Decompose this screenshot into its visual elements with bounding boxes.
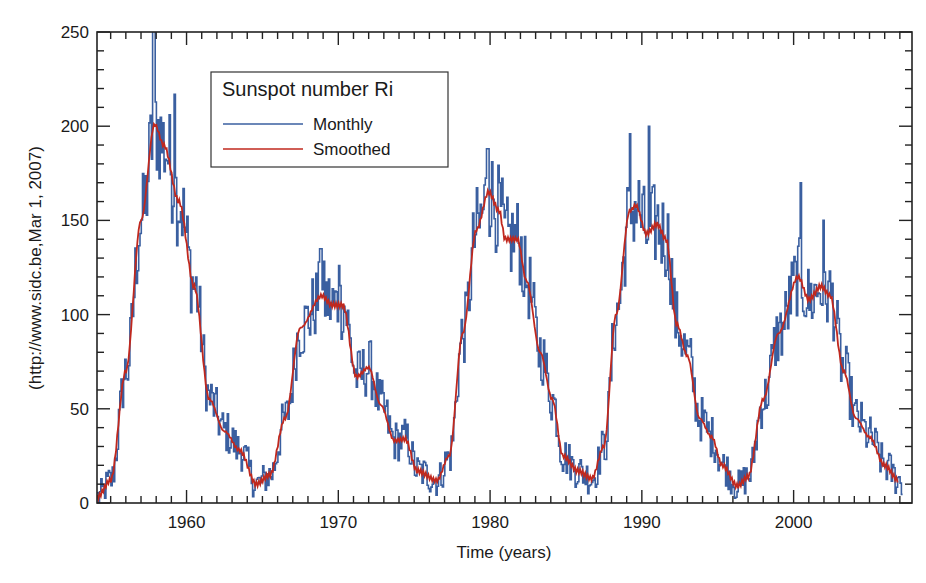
legend-label-monthly: Monthly bbox=[313, 115, 373, 134]
y-tick-label: 250 bbox=[61, 23, 89, 42]
x-tick-label: 1990 bbox=[623, 513, 661, 532]
y-tick-label: 100 bbox=[61, 306, 89, 325]
legend-label-smoothed: Smoothed bbox=[313, 140, 391, 159]
y-tick-label: 200 bbox=[61, 117, 89, 136]
y-axis-tick-labels: 050100150200250 bbox=[61, 23, 89, 513]
y-tick-label: 50 bbox=[70, 400, 89, 419]
x-axis-tick-labels: 19601970198019902000 bbox=[168, 513, 813, 532]
x-tick-label: 1960 bbox=[168, 513, 206, 532]
y-axis-title: (http://www.sidc.be,Mar 1, 2007) bbox=[26, 146, 45, 390]
x-tick-label: 1980 bbox=[471, 513, 509, 532]
y-tick-label: 0 bbox=[80, 494, 89, 513]
y-tick-label: 150 bbox=[61, 211, 89, 230]
legend-title: Sunspot number Ri bbox=[222, 78, 393, 100]
legend: Sunspot number Ri Monthly Smoothed bbox=[211, 72, 448, 167]
x-axis-title: Time (years) bbox=[457, 543, 552, 562]
sunspot-chart: 19601970198019902000 050100150200250 Tim… bbox=[0, 0, 926, 583]
x-tick-label: 2000 bbox=[775, 513, 813, 532]
x-tick-label: 1970 bbox=[319, 513, 357, 532]
